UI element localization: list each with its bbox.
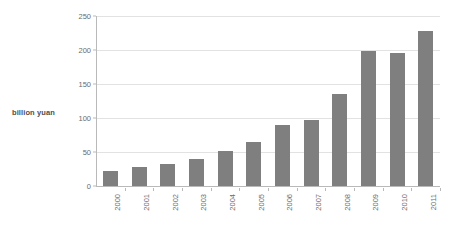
- x-tick-label: 2007: [314, 194, 323, 211]
- x-tick-mark: [297, 188, 298, 191]
- bar: [361, 51, 376, 186]
- x-tick-label: 2008: [343, 194, 352, 211]
- y-tick-label: 100: [78, 114, 91, 123]
- bar: [189, 159, 204, 186]
- x-tick-mark: [411, 188, 412, 191]
- y-axis-title: billion yuan: [12, 108, 55, 117]
- y-tick-label: 50: [83, 148, 91, 157]
- x-tick-label: 2003: [199, 194, 208, 211]
- x-tick-label: 2011: [429, 194, 438, 210]
- x-tick-label: 2000: [113, 194, 122, 211]
- bar: [304, 120, 319, 186]
- x-tick-label: 2006: [285, 194, 294, 211]
- x-tick-mark: [125, 188, 126, 191]
- y-tick-label: 0: [87, 182, 91, 191]
- x-tick-label: 2001: [142, 194, 151, 211]
- x-tick-mark: [383, 188, 384, 191]
- x-axis-ticks: 2000200120022003200420052006200720082009…: [96, 188, 440, 242]
- bar: [132, 167, 147, 186]
- x-tick-mark: [211, 188, 212, 191]
- x-tick-label: 2002: [171, 194, 180, 211]
- x-tick-label: 2009: [371, 194, 380, 211]
- x-tick-label: 2010: [400, 194, 409, 211]
- bar: [390, 53, 405, 186]
- x-tick-mark: [182, 188, 183, 191]
- x-tick-mark: [354, 188, 355, 191]
- x-tick-mark: [153, 188, 154, 191]
- x-tick-mark: [440, 188, 441, 191]
- bar: [160, 164, 175, 186]
- bar: [332, 94, 347, 186]
- bars-layer: [96, 16, 440, 186]
- x-tick-mark: [239, 188, 240, 191]
- gridline: [96, 186, 440, 187]
- bar: [246, 142, 261, 186]
- y-tick-label: 250: [78, 12, 91, 21]
- bar: [275, 125, 290, 186]
- x-tick-label: 2004: [228, 194, 237, 211]
- bar: [218, 151, 233, 186]
- x-tick-label: 2005: [257, 194, 266, 211]
- y-tick-label: 150: [78, 80, 91, 89]
- y-tick-label: 200: [78, 46, 91, 55]
- bar: [103, 171, 118, 186]
- bar-chart: billion yuan 050100150200250 20002001200…: [0, 0, 451, 242]
- bar: [418, 31, 433, 186]
- x-tick-mark: [268, 188, 269, 191]
- x-tick-mark: [325, 188, 326, 191]
- plot-area: 050100150200250: [96, 16, 440, 186]
